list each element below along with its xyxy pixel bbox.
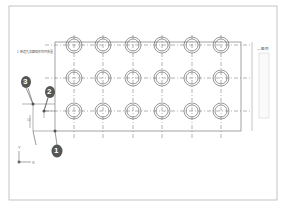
ucs-axis-icon (18, 151, 31, 163)
drawing-canvas: 1 新建孔及圆 矩形阵列布置 — 图 例 10 1 2 3 Y X (0, 0, 289, 210)
column-centerlines (74, 35, 221, 140)
page-frame (9, 6, 277, 200)
title-note: 1 新建孔及圆 矩形阵列布置 (17, 50, 53, 54)
callout-2-number: 2 (47, 87, 51, 96)
axis-y-label: Y (18, 145, 21, 150)
leader-lines (26, 88, 49, 145)
legend-panel (259, 53, 269, 118)
callout-3-number: 3 (23, 77, 27, 86)
axis-x-label: X (32, 160, 35, 165)
plate-outline (55, 42, 241, 131)
cad-drawing (0, 0, 289, 210)
dimension-text: 10 (27, 118, 30, 122)
legend-label: — 图 例 (257, 46, 268, 51)
callout-1-number: 1 (54, 146, 58, 155)
